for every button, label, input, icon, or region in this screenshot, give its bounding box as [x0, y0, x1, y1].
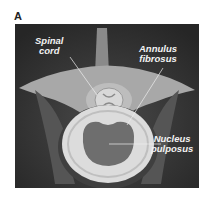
- label-spinal-cord: Spinal cord: [35, 36, 64, 56]
- label-nucleus-pulposus: Nucleus pulposus: [151, 134, 193, 154]
- label-annulus-fibrosus: Annulus fibrosus: [139, 44, 177, 64]
- label-line: fibrosus: [139, 54, 177, 64]
- mri-axial-spine-scan: Spinal cord Annulus fibrosus Nucleus pul…: [15, 24, 199, 188]
- label-line: pulposus: [151, 144, 193, 154]
- label-line: cord: [35, 46, 64, 56]
- panel-letter: A: [14, 10, 22, 22]
